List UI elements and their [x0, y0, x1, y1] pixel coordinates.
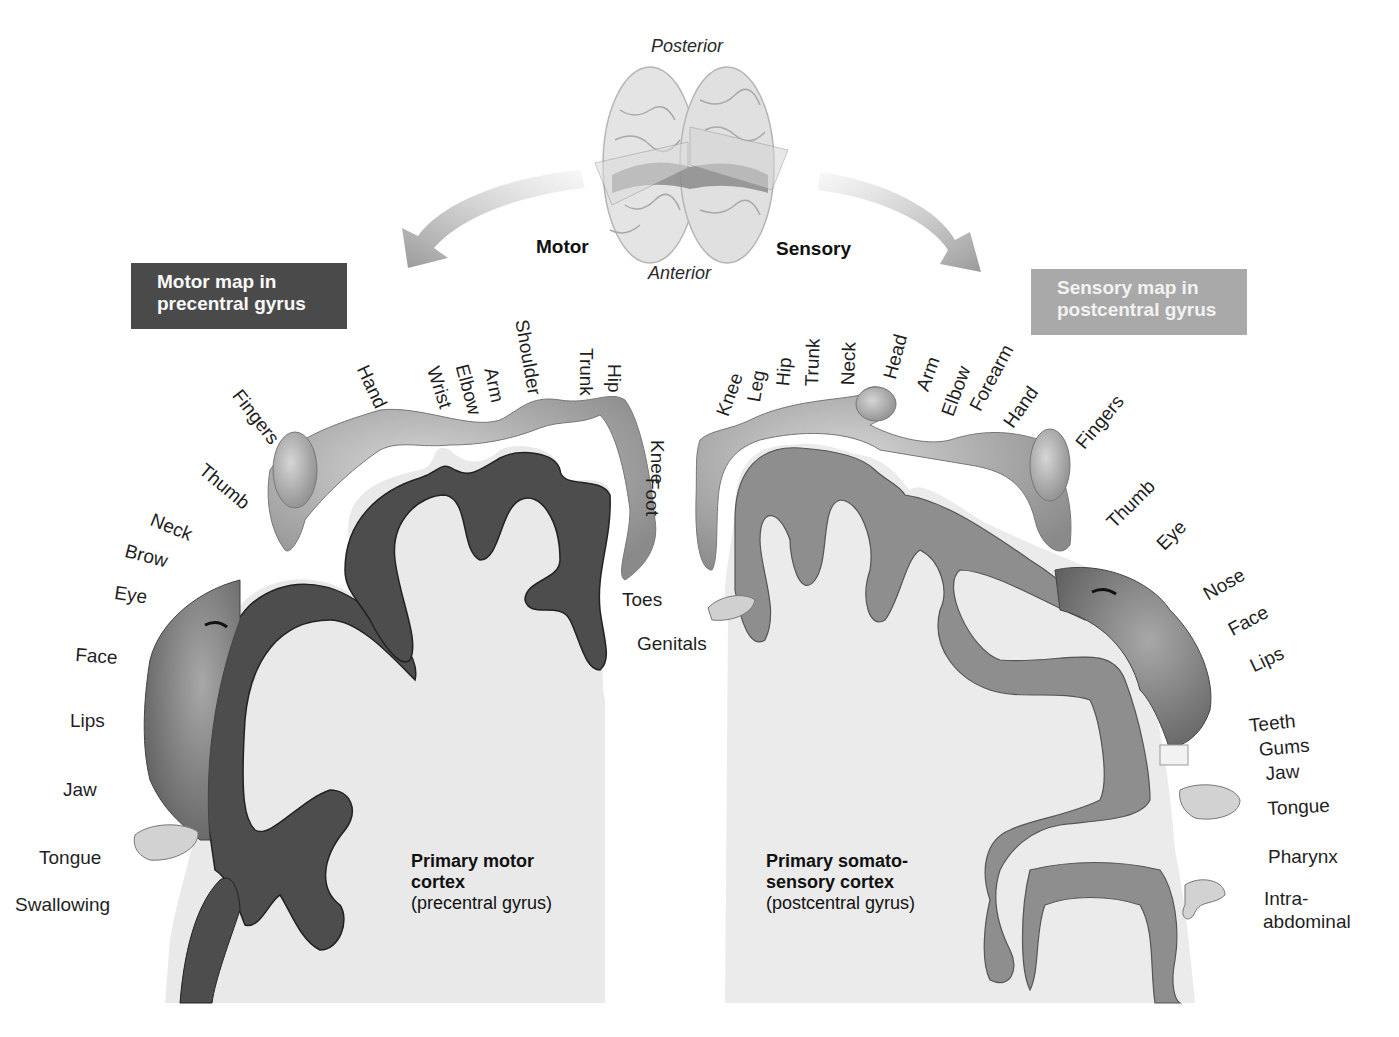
primary-somatosensory-cortex-label: Primary somato- sensory cortex (postcent… [766, 851, 915, 914]
motor-label-face: Face [75, 645, 118, 667]
motor-map-title-box: Motor map in precentral gyrus [131, 263, 347, 329]
sensory-cortex-title-line2: sensory cortex [766, 872, 915, 893]
motor-cortex-section [165, 446, 611, 1003]
sensory-arrow-label: Sensory [776, 239, 851, 258]
sensory-label-leg: Leg [744, 369, 768, 404]
sensory-label-intra: Intra- [1264, 889, 1308, 908]
motor-label-jaw: Jaw [63, 780, 97, 799]
sensory-map-title-line2: postcentral gyrus [1057, 299, 1225, 321]
brain-top-view-icon [595, 67, 788, 263]
sensory-label-pharynx: Pharynx [1268, 847, 1338, 866]
motor-cortex-title-line1: Primary motor [411, 851, 552, 872]
motor-label-trunk: Trunk [577, 348, 596, 396]
sensory-label-jaw: Jaw [1265, 762, 1300, 783]
sensory-label-tongue: Tongue [1267, 796, 1330, 818]
motor-cortex-subtitle: (precentral gyrus) [411, 893, 552, 914]
motor-label-hip: Hip [605, 364, 624, 393]
motor-label-eye: Eye [113, 583, 148, 606]
sensory-label-gums: Gums [1258, 736, 1310, 759]
anterior-label: Anterior [648, 264, 711, 282]
sensory-label-genitals: Genitals [637, 634, 707, 653]
motor-arrow-label: Motor [536, 237, 589, 256]
sensory-map-title-line1: Sensory map in [1057, 277, 1225, 299]
sensory-map-title-box: Sensory map in postcentral gyrus [1031, 269, 1247, 335]
motor-label-tongue: Tongue [39, 848, 101, 867]
sensory-label-hip: Hip [773, 357, 794, 387]
motor-label-lips: Lips [70, 711, 105, 730]
sensory-label-teeth: Teeth [1248, 711, 1296, 735]
sensory-label-abdominal: abdominal [1263, 912, 1351, 931]
diagram-artwork [0, 0, 1399, 1037]
motor-map-title-line2: precentral gyrus [157, 293, 325, 315]
sensory-cortex-title-line1: Primary somato- [766, 851, 915, 872]
sensory-label-neck: Neck [838, 342, 858, 386]
motor-label-toes: Toes [622, 590, 662, 609]
motor-label-knee: Knee [648, 440, 667, 484]
posterior-label: Posterior [651, 37, 723, 55]
sensory-label-trunk: Trunk [802, 338, 823, 387]
primary-motor-cortex-label: Primary motor cortex (precentral gyrus) [411, 851, 552, 914]
motor-map-title-line1: Motor map in [157, 271, 325, 293]
motor-label-swallowing: Swallowing [15, 895, 110, 914]
motor-cortex-title-line2: cortex [411, 872, 552, 893]
sensory-cortex-subtitle: (postcentral gyrus) [766, 893, 915, 914]
sensory-cortex-section [725, 444, 1195, 1003]
